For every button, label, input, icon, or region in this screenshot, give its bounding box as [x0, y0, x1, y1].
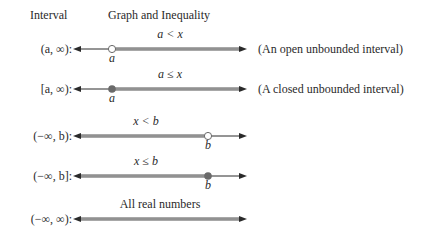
number-line — [0, 113, 425, 153]
left-arrowhead-icon — [73, 216, 81, 222]
graph-column-header: Graph and Inequality — [108, 8, 210, 23]
left-arrowhead-icon — [73, 173, 81, 179]
interval-row-closed-right: [a, ∞): a ≤ x a (A closed unbounded inte… — [0, 66, 425, 106]
interval-description: (An open unbounded interval) — [258, 42, 403, 57]
number-line — [0, 153, 425, 193]
right-arrowhead-icon — [239, 133, 247, 139]
left-arrowhead-icon — [73, 46, 81, 52]
left-arrowhead-icon — [73, 86, 81, 92]
number-line — [0, 196, 425, 236]
endpoint-label: a — [109, 91, 115, 106]
right-arrowhead-icon — [239, 46, 247, 52]
endpoint-label: b — [205, 178, 211, 193]
interval-row-open-right: (a, ∞): a < x a (An open unbounded inter… — [0, 26, 425, 66]
right-arrowhead-icon — [239, 86, 247, 92]
interval-column-header: Interval — [30, 8, 67, 23]
right-arrowhead-icon — [239, 173, 247, 179]
interval-row-open-left: (−∞, b): x < b b — [0, 113, 425, 153]
interval-row-closed-left: (−∞, b]: x ≤ b b — [0, 153, 425, 193]
interval-row-all-reals: (−∞, ∞): All real numbers — [0, 196, 425, 236]
left-arrowhead-icon — [73, 133, 81, 139]
interval-description: (A closed unbounded interval) — [258, 82, 404, 97]
endpoint-label: b — [205, 138, 211, 153]
endpoint-label: a — [109, 51, 115, 66]
right-arrowhead-icon — [239, 216, 247, 222]
